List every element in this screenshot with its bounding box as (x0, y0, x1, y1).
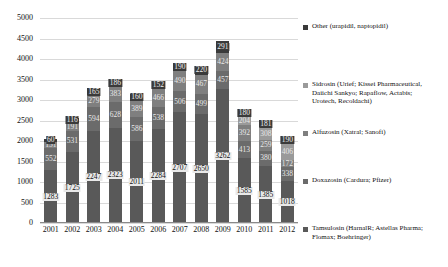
bar-segment[interactable]: 1018 (281, 181, 294, 223)
bar-column[interactable]: 1725531191116 (62, 18, 84, 223)
x-axis: 2001200220032004200520062007200820092010… (40, 225, 298, 239)
bar-value-label: 220 (195, 66, 208, 74)
bar-segment[interactable]: 60 (44, 139, 57, 141)
bar-segment[interactable]: 2284 (152, 129, 165, 223)
legend-label: Alfuzosin (Xatral; Sanofi) (312, 128, 385, 137)
bar-segment[interactable]: 279 (87, 95, 100, 106)
bar-segment[interactable]: 499 (195, 94, 208, 114)
y-axis-tick-label: 2000 (17, 137, 33, 145)
bar-segment[interactable]: 380 (259, 151, 272, 167)
bar-segment[interactable]: 392 (238, 125, 251, 141)
y-axis: 5000450040003500300025002000150010005000 (0, 18, 36, 223)
bar-stack: 2011586389160 (130, 94, 143, 223)
bar-column[interactable]: 2247594279165 (83, 18, 105, 223)
y-axis-tick-label: 1000 (17, 178, 33, 186)
bar-segment[interactable]: 1585 (238, 158, 251, 223)
bar-value-label: 466 (152, 94, 165, 102)
bar-segment[interactable]: 467 (195, 75, 208, 94)
bar-column[interactable]: 1385380259308181 (255, 18, 277, 223)
legend-item[interactable]: Doxazosin (Cardura; Pfizer) (303, 176, 391, 185)
bar-segment[interactable]: 160 (130, 94, 143, 101)
bar-value-label: 406 (281, 148, 294, 156)
bar-segment[interactable]: 2011 (130, 141, 143, 223)
bar-segment[interactable]: 457 (216, 71, 229, 90)
bar-value-label: 1725 (64, 184, 81, 192)
bar-segment[interactable]: 2707 (173, 112, 186, 223)
x-axis-tick-label: 2001 (40, 225, 62, 239)
y-axis-tick-label: 1500 (17, 158, 33, 166)
bar-column[interactable]: 2323628383186 (105, 18, 127, 223)
bar-segment[interactable]: 1385 (259, 166, 272, 223)
bar-segment[interactable]: 531 (66, 131, 79, 153)
legend-item[interactable]: Tamsulosin (HarnalR; Astellas Pharma; Fl… (303, 224, 423, 241)
bar-stack: 128355215160 (44, 139, 57, 223)
bar-segment[interactable]: 552 (44, 148, 57, 171)
bar-column[interactable]: 2650499467220 (191, 18, 213, 223)
bar-segment[interactable]: 308 (259, 127, 272, 140)
bar-segment[interactable]: 594 (87, 107, 100, 131)
bar-stack: 3262457424291 (216, 41, 229, 223)
y-axis-tick-label: 3000 (17, 96, 33, 104)
bar-value-label: 1018 (279, 198, 296, 206)
bar-segment[interactable]: 291 (216, 41, 229, 53)
bar-column[interactable]: 1585413392204180 (234, 18, 256, 223)
bar-segment[interactable]: 152 (152, 82, 165, 88)
bar-segment[interactable]: 413 (238, 141, 251, 158)
bar-segment[interactable]: 259 (259, 140, 272, 151)
bar-column[interactable]: 2011586389160 (126, 18, 148, 223)
bar-column[interactable]: 2284538466152 (148, 18, 170, 223)
legend-item[interactable]: Sidrosin (Urief; Kissei Pharmaceutical, … (303, 80, 422, 106)
bar-segment[interactable]: 338 (281, 167, 294, 181)
bar-column[interactable]: 128355215160 (40, 18, 62, 223)
bar-segment[interactable]: 1283 (44, 170, 57, 223)
bar-segment[interactable]: 116 (66, 118, 79, 123)
gridline (40, 223, 298, 224)
bar-segment[interactable]: 628 (109, 102, 122, 128)
bar-value-label: 552 (44, 155, 57, 163)
bar-segment[interactable]: 2247 (87, 131, 100, 223)
bar-segment[interactable]: 389 (130, 101, 143, 117)
bar-segment[interactable]: 190 (281, 136, 294, 144)
bar-stack: 2284538466152 (152, 82, 165, 223)
bar-stack: 2323628383186 (109, 79, 122, 223)
bar-value-label: 279 (87, 97, 100, 105)
y-axis-tick-label: 500 (21, 199, 33, 207)
bar-segment[interactable]: 165 (87, 88, 100, 95)
bar-segment[interactable]: 3262 (216, 89, 229, 223)
bar-segment[interactable]: 190 (173, 63, 186, 71)
bar-segment[interactable]: 204 (238, 117, 251, 125)
bar-column[interactable]: 1018338172406190 (277, 18, 299, 223)
bar-segment[interactable]: 586 (130, 117, 143, 141)
bar-segment[interactable]: 538 (152, 107, 165, 129)
legend-label: Sidrosin (Urief; Kissei Pharmaceutical, … (312, 80, 422, 106)
bar-segment[interactable]: 490 (173, 71, 186, 91)
bar-value-label: 506 (173, 98, 186, 106)
bar-segment[interactable]: 172 (281, 160, 294, 167)
bar-value-label: 2011 (128, 178, 145, 186)
bar-segment[interactable]: 1725 (66, 152, 79, 223)
bar-segment[interactable]: 180 (238, 109, 251, 116)
stacked-bar-chart: 5000450040003500300025002000150010005000… (0, 0, 448, 267)
legend-item[interactable]: Other (urapidil, naptopidil) (303, 22, 388, 31)
bar-segment[interactable]: 424 (216, 53, 229, 70)
y-axis-tick-label: 4500 (17, 35, 33, 43)
bar-segment[interactable]: 2323 (109, 128, 122, 223)
bar-value-label: 190 (173, 63, 186, 71)
bar-segment[interactable]: 406 (281, 144, 294, 161)
bar-column[interactable]: 3262457424291 (212, 18, 234, 223)
bar-segment[interactable]: 2650 (195, 114, 208, 223)
bar-segment[interactable]: 220 (195, 66, 208, 75)
legend-swatch (303, 179, 308, 184)
bar-segment[interactable]: 181 (259, 120, 272, 127)
legend-item[interactable]: Alfuzosin (Xatral; Sanofi) (303, 128, 385, 137)
bar-value-label: 1585 (236, 187, 253, 195)
bar-value-label: 2284 (150, 172, 167, 180)
bar-value-label: 2323 (107, 171, 124, 179)
y-axis-tick-label: 5000 (17, 14, 33, 22)
bar-segment[interactable]: 506 (173, 91, 186, 112)
bar-column[interactable]: 2707506490190 (169, 18, 191, 223)
bar-segment[interactable]: 383 (109, 86, 122, 102)
bar-value-label: 181 (259, 120, 272, 128)
bar-segment[interactable]: 466 (152, 88, 165, 107)
bar-segment[interactable]: 186 (109, 79, 122, 87)
